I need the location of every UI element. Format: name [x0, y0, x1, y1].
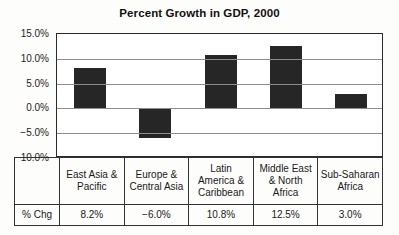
page-title: Percent Growth in GDP, 2000	[0, 7, 399, 19]
value-cell: 12.5%	[253, 205, 318, 226]
value-cell: 10.8%	[189, 205, 254, 226]
bar	[74, 68, 106, 109]
column-header-cell: East Asia &Pacific	[60, 158, 125, 205]
column-header-line: Middle East	[255, 163, 317, 175]
column-header-cell: Sub-SaharanAfrica	[318, 158, 383, 205]
bar	[205, 55, 237, 109]
value-cell: −6.0%	[124, 205, 189, 226]
column-header-line: Caribbean	[190, 187, 252, 199]
table-row: % Chg 8.2%−6.0%10.8%12.5%3.0%	[15, 205, 383, 226]
gridline	[57, 59, 382, 60]
y-tick-label: 15.0%	[21, 28, 49, 39]
column-header-line: & North	[255, 175, 317, 187]
column-header-line: Europe &	[126, 169, 188, 181]
column-header-line: America &	[190, 175, 252, 187]
column-header-line: Central Asia	[126, 181, 188, 193]
column-header-line: Africa	[319, 181, 381, 193]
column-header-cell: Europe &Central Asia	[124, 158, 189, 205]
value-cell: 3.0%	[318, 205, 383, 226]
plot-area	[56, 33, 383, 157]
row-label-cell: % Chg	[15, 205, 60, 226]
column-header-line: East Asia &	[61, 169, 123, 181]
data-table: East Asia &PacificEurope &Central AsiaLa…	[14, 157, 383, 226]
gridline	[57, 133, 382, 134]
y-tick-label: −5.0%	[20, 127, 49, 138]
column-header-cell: LatinAmerica &Caribbean	[189, 158, 254, 205]
value-cell: 8.2%	[60, 205, 125, 226]
column-header-line: Africa	[255, 187, 317, 199]
bar	[270, 46, 302, 108]
gridline	[57, 84, 382, 85]
gridline	[57, 108, 382, 109]
table-corner-cell	[15, 158, 60, 205]
bar	[335, 94, 367, 109]
column-header-line: Latin	[190, 163, 252, 175]
y-tick-label: 5.0%	[26, 77, 49, 88]
bar-series	[57, 34, 382, 156]
chart-figure: Percent Growth in GDP, 2000 15.0%10.0%5.…	[0, 0, 399, 235]
y-tick-label: 0.0%	[26, 102, 49, 113]
column-header-line: Sub-Saharan	[319, 169, 381, 181]
table-header-row: East Asia &PacificEurope &Central AsiaLa…	[15, 158, 383, 205]
y-tick-label: 10.0%	[21, 52, 49, 63]
column-header-cell: Middle East& NorthAfrica	[253, 158, 318, 205]
y-axis: 15.0%10.0%5.0%0.0%−5.0%−10.0%	[0, 33, 52, 157]
column-header-line: Pacific	[61, 181, 123, 193]
value-table: East Asia &PacificEurope &Central AsiaLa…	[14, 157, 383, 226]
